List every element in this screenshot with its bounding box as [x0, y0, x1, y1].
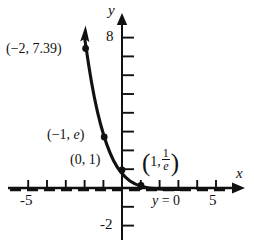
point-marker	[119, 167, 126, 174]
fraction-denominator: e	[162, 159, 170, 172]
point-label-neg1-close: )	[80, 127, 85, 142]
fraction-numerator: 1	[162, 147, 170, 159]
point-label-neg1-open: (−1,	[47, 127, 74, 142]
point-marker	[101, 134, 108, 141]
point-label-neg2: (−2, 7.39)	[6, 42, 62, 56]
y-tick-label-neg2: -2	[100, 217, 113, 232]
asymptote-label: y = 0	[152, 194, 180, 208]
point-label-one-open-paren: (	[142, 154, 150, 172]
curve-points	[82, 45, 144, 189]
point-label-one: (1, 1e)	[142, 147, 179, 173]
plot-canvas	[0, 0, 254, 246]
exponential-graph-figure: y x 8 -2 -5 5 (−2, 7.39) (−1, e) (0, 1) …	[0, 0, 254, 246]
x-tick-label-neg5: -5	[20, 193, 33, 208]
asymptote-label-eq: = 0	[158, 193, 180, 208]
point-label-zero: (0, 1)	[70, 153, 100, 167]
point-label-one-x: 1,	[150, 155, 161, 169]
y-axis-label: y	[108, 3, 115, 18]
point-marker	[82, 45, 89, 52]
x-axis-label: x	[236, 166, 243, 181]
y-tick-label-8: 8	[106, 29, 114, 44]
point-label-neg1: (−1, e)	[47, 128, 84, 142]
x-tick-label-5: 5	[209, 193, 217, 208]
point-label-one-close-paren: )	[171, 154, 179, 172]
fraction-one-over-e: 1e	[162, 147, 170, 173]
point-marker	[138, 182, 145, 189]
